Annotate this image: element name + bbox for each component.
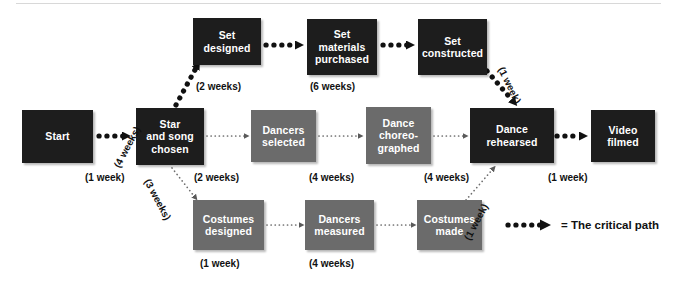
link-costumes-made-to-rehearsed <box>466 170 492 200</box>
legend: = The critical path <box>506 218 659 232</box>
node-video-filmed[interactable]: Video filmed <box>591 110 655 162</box>
node-star-and-song-chosen-label: Star and song chosen <box>146 118 193 156</box>
link-star-to-costumes-designed <box>172 168 194 196</box>
node-dance-choreographed-label: Dance choreo- graphed <box>377 117 419 155</box>
duration-set-designed-to-materials: (2 weeks) <box>196 81 241 92</box>
node-dance-choreographed[interactable]: Dance choreo- graphed <box>366 107 431 164</box>
node-dancers-measured-label: Dancers measured <box>314 213 364 238</box>
node-start[interactable]: Start <box>22 110 93 163</box>
critical-path-arrow-icon <box>506 218 554 232</box>
duration-measured-to-costumes-made: (4 weeks) <box>309 258 354 269</box>
duration-materials-to-constructed: (6 weeks) <box>310 81 355 92</box>
node-set-constructed-label: Set constructed <box>422 35 483 60</box>
legend-label: = The critical path <box>561 219 659 231</box>
duration-costumes-designed-to-measured: (1 week) <box>200 258 239 269</box>
node-dance-rehearsed[interactable]: Dance rehearsed <box>470 108 554 163</box>
node-start-label: Start <box>45 130 69 143</box>
node-dancers-measured[interactable]: Dancers measured <box>305 200 374 250</box>
node-dance-rehearsed-label: Dance rehearsed <box>486 123 537 148</box>
node-video-filmed-label: Video filmed <box>607 124 639 149</box>
duration-star-to-dancers-selected: (2 weeks) <box>194 172 239 183</box>
duration-rehearsed-to-filmed: (1 week) <box>548 172 587 183</box>
duration-start-to-star: (1 week) <box>85 172 124 183</box>
node-set-designed-label: Set designed <box>204 29 251 54</box>
diagram-canvas: Start Set designed Set materials purchas… <box>0 0 679 281</box>
node-dancers-selected[interactable]: Dancers selected <box>251 110 316 162</box>
link-star-to-set-designed <box>176 68 196 105</box>
node-costumes-designed[interactable]: Costumes designed <box>193 200 264 250</box>
node-dancers-selected-label: Dancers selected <box>262 124 305 149</box>
duration-dancers-selected-to-choreo: (4 weeks) <box>309 172 354 183</box>
node-set-constructed[interactable]: Set constructed <box>418 19 487 75</box>
node-star-and-song-chosen[interactable]: Star and song chosen <box>136 108 204 165</box>
node-set-materials-purchased[interactable]: Set materials purchased <box>307 19 377 75</box>
node-costumes-designed-label: Costumes designed <box>203 213 255 238</box>
node-set-designed[interactable]: Set designed <box>193 18 261 65</box>
duration-choreo-to-rehearsed: (4 weeks) <box>424 172 469 183</box>
node-set-materials-purchased-label: Set materials purchased <box>315 28 369 66</box>
